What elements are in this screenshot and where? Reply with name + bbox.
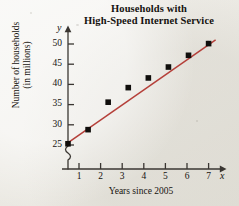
data-point-3 [125, 85, 131, 91]
axes [62, 26, 227, 173]
data-point-7 [206, 41, 212, 47]
y-axis-break-icon [66, 146, 71, 169]
data-point-2 [105, 99, 111, 105]
y-tick-marks [68, 44, 74, 145]
x-tick-label-4: 4 [138, 171, 150, 181]
y-tick-label-35: 35 [44, 98, 62, 108]
data-point-0 [65, 141, 71, 147]
y-tick-label-30: 30 [44, 119, 62, 129]
x-tick-marks [79, 163, 209, 169]
x-tick-label-7: 7 [203, 171, 215, 181]
data-point-5 [166, 64, 172, 70]
x-tick-label-3: 3 [116, 171, 128, 181]
x-tick-label-5: 5 [159, 171, 171, 181]
x-tick-label-2: 2 [95, 171, 107, 181]
x-axis-variable-label: x [220, 170, 224, 181]
y-axis-arrowhead-icon [65, 26, 72, 33]
y-tick-label-50: 50 [44, 38, 62, 48]
y-tick-label-25: 25 [44, 139, 62, 149]
y-tick-label-45: 45 [44, 58, 62, 68]
data-point-4 [146, 75, 152, 81]
x-tick-label-1: 1 [73, 171, 85, 181]
y-axis-variable-label: y [57, 22, 61, 33]
data-point-1 [85, 127, 91, 133]
x-tick-label-6: 6 [181, 171, 193, 181]
y-tick-label-40: 40 [44, 78, 62, 88]
data-point-6 [186, 53, 192, 59]
